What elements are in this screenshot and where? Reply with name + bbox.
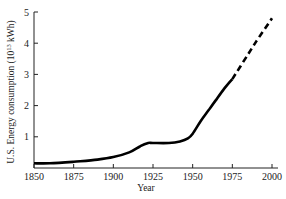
x-tick-label: 2000 [262, 171, 282, 182]
x-axis-title: Year [137, 183, 155, 193]
y-tick-label: 4 [24, 38, 29, 49]
axes [34, 12, 278, 168]
y-tick-label: 1 [24, 131, 29, 142]
x-tick-label: 1975 [222, 171, 242, 182]
y-tick-label: 2 [24, 100, 29, 111]
y-tick-label: 5 [24, 7, 29, 18]
x-tick-label: 1875 [64, 171, 84, 182]
energy-consumption-chart: 12345 1850187519001925195019752000 Year … [0, 0, 286, 199]
y-tick-label: 3 [24, 69, 29, 80]
x-tick-label: 1850 [24, 171, 44, 182]
historical-line [34, 79, 232, 163]
x-tick-label: 1950 [183, 171, 203, 182]
y-axis-title: U.S. Energy consumption (1013 kWh) [5, 20, 17, 164]
x-ticks: 1850187519001925195019752000 [24, 164, 282, 182]
x-tick-label: 1925 [143, 171, 163, 182]
data-series [34, 18, 272, 163]
y-ticks: 12345 [24, 7, 38, 143]
x-tick-label: 1900 [103, 171, 123, 182]
projection-line [232, 18, 272, 79]
